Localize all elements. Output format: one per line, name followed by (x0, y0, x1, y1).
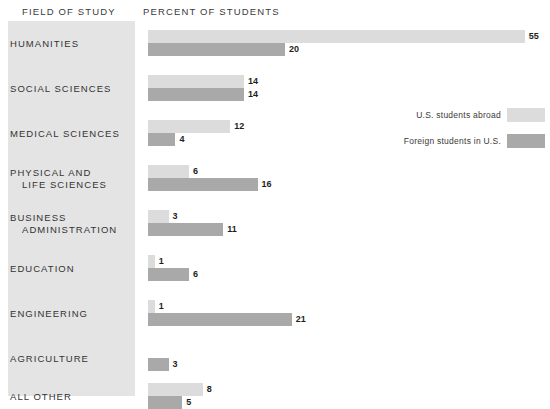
column-header-field-of-study: FIELD OF STUDY (22, 6, 116, 17)
bar-value-label: 14 (248, 75, 258, 88)
bar-foreign (148, 223, 223, 236)
category-label-panel (8, 21, 135, 396)
legend-item: U.S. students abroad (395, 108, 545, 122)
bar-abroad (148, 165, 189, 178)
bar-abroad (148, 210, 169, 223)
column-header-percent-of-students: PERCENT OF STUDENTS (143, 6, 280, 17)
bar-abroad (148, 255, 155, 268)
bar-abroad (148, 300, 155, 313)
bar-foreign (148, 396, 182, 409)
bar-foreign (148, 313, 292, 326)
category-label: SOCIAL SCIENCES (10, 83, 111, 95)
plot-area: 5520141412461631116121385 (148, 21, 548, 396)
bar-foreign (148, 43, 285, 56)
bar-foreign (148, 133, 175, 146)
legend-item: Foreign students in U.S. (395, 134, 545, 148)
category-label-line1: HUMANITIES (10, 38, 79, 49)
bar-value-label: 12 (234, 120, 244, 133)
legend-label: Foreign students in U.S. (404, 134, 501, 148)
category-label-line1: SOCIAL SCIENCES (10, 83, 111, 94)
legend-label: U.S. students abroad (416, 108, 501, 122)
category-label: AGRICULTURE (10, 353, 89, 365)
category-label-line1: AGRICULTURE (10, 353, 89, 364)
bar-foreign (148, 268, 189, 281)
bar-foreign (148, 88, 244, 101)
category-label-line2: LIFE SCIENCES (10, 179, 107, 191)
bar-value-label: 11 (227, 223, 237, 236)
bar-value-label: 21 (296, 313, 306, 326)
bar-value-label: 4 (179, 133, 184, 146)
category-label: MEDICAL SCIENCES (10, 128, 120, 140)
category-label-line2: ADMINISTRATION (10, 224, 117, 236)
category-label-line1: ENGINEERING (10, 308, 88, 319)
category-label-line1: ALL OTHER (10, 391, 72, 402)
bar-abroad (148, 120, 230, 133)
category-label-line1: BUSINESS (10, 212, 66, 223)
bar-value-label: 20 (289, 43, 299, 56)
bar-value-label: 1 (159, 255, 164, 268)
bar-value-label: 55 (529, 30, 539, 43)
bar-value-label: 1 (159, 300, 164, 313)
category-label: HUMANITIES (10, 38, 79, 50)
bar-foreign (148, 358, 169, 371)
bar-value-label: 8 (207, 383, 212, 396)
bar-foreign (148, 178, 258, 191)
category-label-line1: EDUCATION (10, 263, 75, 274)
category-label: PHYSICAL ANDLIFE SCIENCES (10, 167, 107, 190)
bar-value-label: 16 (262, 178, 272, 191)
category-label-line1: PHYSICAL AND (10, 167, 91, 178)
bar-abroad (148, 383, 203, 396)
bar-value-label: 6 (193, 268, 198, 281)
category-label: ENGINEERING (10, 308, 88, 320)
bar-abroad (148, 30, 525, 43)
bar-value-label: 3 (173, 210, 178, 223)
bar-value-label: 3 (173, 358, 178, 371)
bar-value-label: 14 (248, 88, 258, 101)
category-label: BUSINESSADMINISTRATION (10, 212, 117, 235)
bar-value-label: 6 (193, 165, 198, 178)
category-label: EDUCATION (10, 263, 75, 275)
category-label: ALL OTHER (10, 391, 72, 403)
legend-swatch-light (507, 108, 545, 122)
bar-abroad (148, 75, 244, 88)
bar-value-label: 5 (186, 396, 191, 409)
legend-swatch-dark (507, 134, 545, 148)
category-label-line1: MEDICAL SCIENCES (10, 128, 120, 139)
